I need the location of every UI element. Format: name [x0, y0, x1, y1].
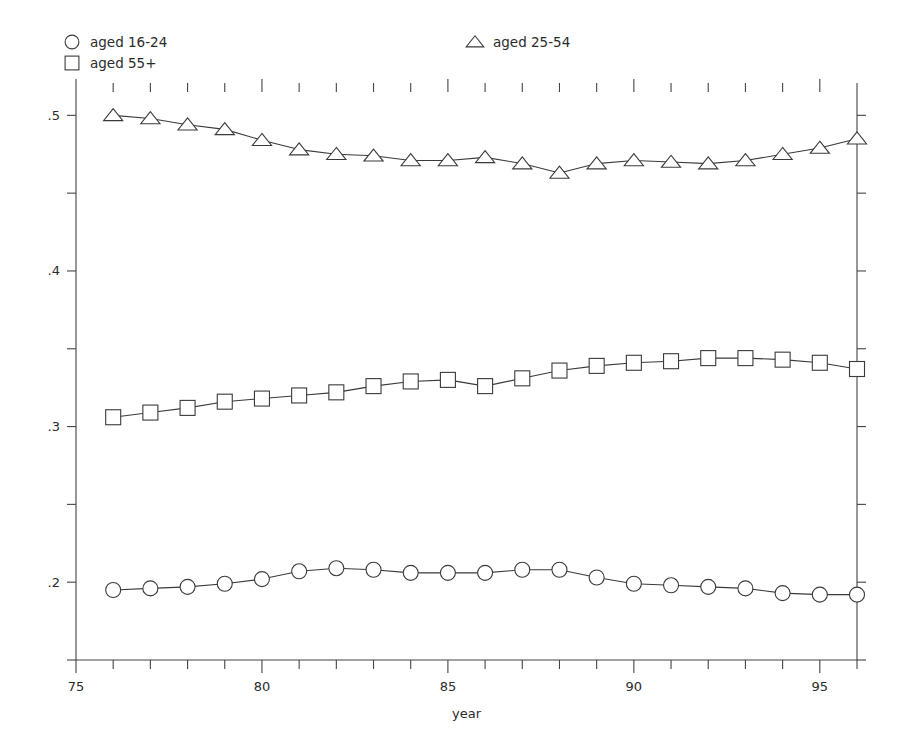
x-tick-label: 90	[626, 679, 643, 694]
data-point	[217, 576, 232, 591]
data-point	[252, 133, 271, 145]
data-point	[106, 582, 121, 597]
chart-container: aged 16-24aged 55+aged 25-54 .2.3.4.5758…	[0, 0, 900, 742]
data-point	[403, 374, 418, 389]
data-point	[254, 391, 269, 406]
data-point	[738, 581, 753, 596]
data-point	[104, 109, 123, 121]
data-point	[810, 141, 829, 153]
data-point	[106, 410, 121, 425]
series-circle	[106, 561, 865, 602]
data-point	[440, 565, 455, 580]
x-tick-label: 95	[812, 679, 829, 694]
data-point	[366, 379, 381, 394]
data-point	[329, 385, 344, 400]
x-tick-label: 85	[440, 679, 457, 694]
data-point	[515, 371, 530, 386]
legend-marker-triangle	[466, 36, 484, 47]
data-point	[143, 581, 158, 596]
data-point	[366, 562, 381, 577]
x-axis-title: year	[452, 706, 482, 721]
legend-marker-square	[65, 56, 79, 70]
data-point	[626, 355, 641, 370]
series-triangle	[104, 109, 867, 179]
y-tick-label: .5	[48, 108, 60, 123]
data-point	[180, 579, 195, 594]
data-point	[775, 352, 790, 367]
data-point	[143, 405, 158, 420]
data-point	[589, 570, 604, 585]
data-point	[664, 354, 679, 369]
data-point	[180, 400, 195, 415]
data-point	[475, 151, 494, 163]
legend-item-square[interactable]: aged 55+	[65, 55, 156, 71]
data-point	[664, 578, 679, 593]
data-point	[292, 388, 307, 403]
data-point	[775, 586, 790, 601]
plot-frame	[76, 92, 857, 660]
data-point	[254, 572, 269, 587]
legend: aged 16-24aged 55+aged 25-54	[65, 34, 570, 71]
data-point	[552, 363, 567, 378]
x-tick-label: 75	[68, 679, 85, 694]
data-point	[552, 562, 567, 577]
data-point	[626, 576, 641, 591]
legend-item-triangle[interactable]: aged 25-54	[466, 34, 570, 50]
data-point	[589, 358, 604, 373]
legend-label: aged 55+	[90, 55, 157, 71]
data-point	[847, 132, 866, 144]
data-point	[329, 561, 344, 576]
y-tick-label: .3	[48, 419, 60, 434]
y-tick-label: .4	[48, 263, 60, 278]
data-point	[478, 565, 493, 580]
data-point	[292, 564, 307, 579]
data-point	[812, 587, 827, 602]
line-chart: aged 16-24aged 55+aged 25-54 .2.3.4.5758…	[0, 0, 900, 742]
data-point	[403, 565, 418, 580]
data-point	[701, 579, 716, 594]
data-point	[217, 394, 232, 409]
series-group	[104, 109, 867, 603]
legend-item-circle[interactable]: aged 16-24	[65, 34, 167, 50]
tick-labels: .2.3.4.57580859095	[48, 108, 828, 694]
data-point	[515, 562, 530, 577]
axis-titles: year	[452, 706, 482, 721]
data-point	[550, 166, 569, 178]
y-tick-label: .2	[48, 575, 60, 590]
legend-label: aged 25-54	[493, 34, 570, 50]
legend-marker-circle	[65, 35, 79, 49]
data-point	[812, 355, 827, 370]
data-point	[850, 361, 865, 376]
data-point	[738, 351, 753, 366]
data-point	[624, 154, 643, 166]
data-point	[290, 143, 309, 155]
data-point	[478, 379, 493, 394]
series-square	[106, 351, 865, 425]
data-point	[850, 587, 865, 602]
legend-label: aged 16-24	[90, 34, 167, 50]
data-point	[440, 372, 455, 387]
data-point	[701, 351, 716, 366]
x-tick-label: 80	[254, 679, 271, 694]
